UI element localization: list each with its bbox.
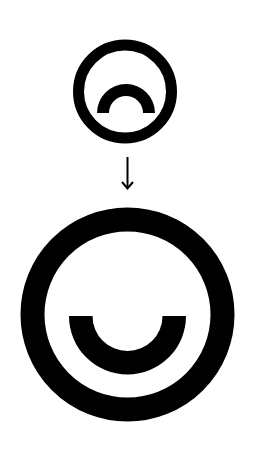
diagram-canvas: Small circle with upward arc (frown) Dow… <box>0 0 258 449</box>
diagram-svg <box>0 0 258 449</box>
